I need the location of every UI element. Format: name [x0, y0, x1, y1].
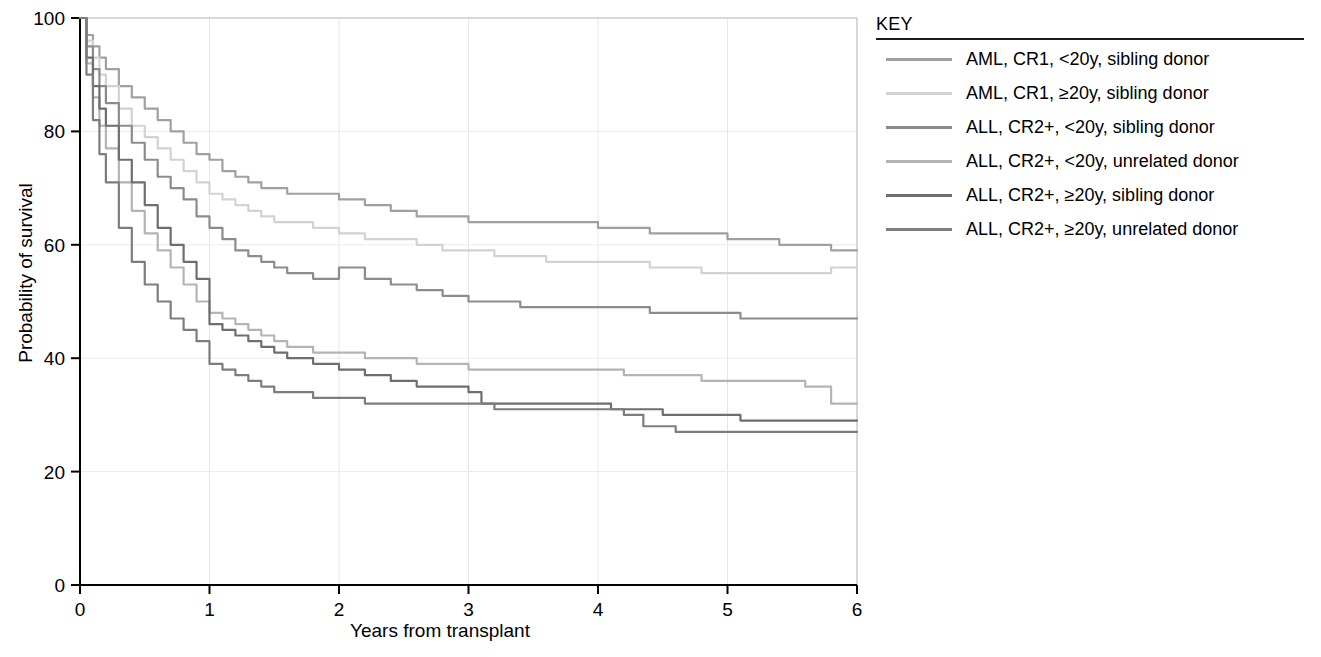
legend-line-swatch: [886, 126, 952, 129]
survival-chart-figure: 0204060801000123456 Probability of survi…: [0, 0, 1321, 657]
y-axis-label: Probability of survival: [15, 163, 37, 383]
legend-item-label: AML, CR1, ≥20y, sibling donor: [966, 83, 1209, 104]
svg-text:6: 6: [852, 599, 863, 620]
plot-svg: 0204060801000123456: [0, 0, 880, 657]
svg-text:100: 100: [33, 8, 65, 29]
legend-divider: [876, 38, 1304, 40]
legend-item-label: ALL, CR2+, ≥20y, unrelated donor: [966, 219, 1238, 240]
svg-text:0: 0: [54, 575, 65, 596]
legend-line-swatch: [886, 58, 952, 61]
legend-item-5[interactable]: ALL, CR2+, ≥20y, sibling donor: [876, 178, 1316, 212]
legend-rows: AML, CR1, <20y, sibling donorAML, CR1, ≥…: [876, 42, 1316, 246]
legend-title: KEY: [876, 14, 1316, 35]
legend-item-label: ALL, CR2+, <20y, sibling donor: [966, 117, 1215, 138]
svg-text:3: 3: [463, 599, 474, 620]
legend-item-label: AML, CR1, <20y, sibling donor: [966, 49, 1209, 70]
legend-item-label: ALL, CR2+, ≥20y, sibling donor: [966, 185, 1214, 206]
legend-line-swatch: [886, 194, 952, 197]
legend-item-2[interactable]: AML, CR1, ≥20y, sibling donor: [876, 76, 1316, 110]
x-axis-label: Years from transplant: [0, 620, 880, 642]
svg-text:20: 20: [44, 462, 65, 483]
svg-text:4: 4: [593, 599, 604, 620]
svg-text:1: 1: [204, 599, 215, 620]
chart-plot-area: 0204060801000123456 Probability of survi…: [0, 0, 880, 657]
axis-tick-labels: 0204060801000123456: [33, 8, 862, 620]
legend-line-swatch: [886, 92, 952, 95]
legend-item-1[interactable]: AML, CR1, <20y, sibling donor: [876, 42, 1316, 76]
axis-ticks: [71, 18, 857, 594]
svg-text:40: 40: [44, 348, 65, 369]
legend-line-swatch: [886, 160, 952, 163]
legend-line-swatch: [886, 228, 952, 231]
legend-item-4[interactable]: ALL, CR2+, <20y, unrelated donor: [876, 144, 1316, 178]
svg-text:2: 2: [334, 599, 345, 620]
legend-item-3[interactable]: ALL, CR2+, <20y, sibling donor: [876, 110, 1316, 144]
legend-panel: KEY AML, CR1, <20y, sibling donorAML, CR…: [876, 14, 1316, 246]
legend-item-6[interactable]: ALL, CR2+, ≥20y, unrelated donor: [876, 212, 1316, 246]
legend-item-label: ALL, CR2+, <20y, unrelated donor: [966, 151, 1239, 172]
svg-text:80: 80: [44, 121, 65, 142]
svg-text:5: 5: [722, 599, 733, 620]
svg-text:60: 60: [44, 235, 65, 256]
svg-text:0: 0: [75, 599, 86, 620]
